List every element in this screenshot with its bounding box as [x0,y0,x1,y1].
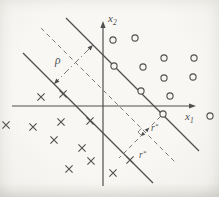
cross-point [59,90,66,97]
cross-point [29,123,36,130]
cross-point [78,144,85,151]
circle-point [191,55,197,61]
figure-canvas: x1x2ρr*r* [0,0,219,197]
circle-point [167,93,173,99]
x-axis-label: x1 [184,110,194,125]
circle-point [140,64,146,70]
circle-point [161,55,167,61]
circle-point [138,88,144,94]
r-star-lower-label: r* [139,149,147,160]
circle-point [111,63,117,69]
cross-point [86,117,93,124]
circle-point [190,74,196,80]
cross-point [65,165,72,172]
y-axis-label: x2 [107,12,117,27]
support-vector-distance-arrowhead-up [145,128,150,133]
circle-point [161,75,167,81]
cross-point [87,157,94,164]
circle-point [207,113,213,119]
scanned-textbook-figure: x1x2ρr*r* [0,0,219,197]
rho-label: ρ [54,54,61,67]
y-axis-arrowhead [100,21,105,28]
circle-point [132,35,138,41]
cross-point [37,93,44,100]
circle-point [110,37,116,43]
x-axis-arrowhead [189,103,196,108]
cross-point [109,169,116,176]
cross-point [50,136,57,143]
cross-point [2,121,9,128]
r-star-upper-label: r* [151,122,159,133]
cross-point [126,156,133,163]
right-angle-marker [138,128,142,135]
circle-point [160,111,166,117]
cross-point [57,118,64,125]
